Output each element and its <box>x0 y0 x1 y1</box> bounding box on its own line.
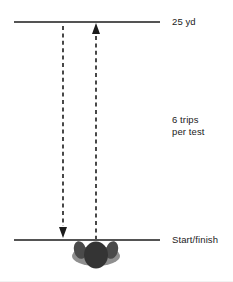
return-arrowhead-up <box>92 23 100 34</box>
trips-unit-label: per test <box>172 126 204 138</box>
trips-count-label: 6 trips <box>172 114 199 126</box>
top-distance-label: 25 yd <box>172 16 196 28</box>
shuttle-run-diagram: 25 yd 6 trips per test Start/finish <box>0 0 233 282</box>
start-finish-label: Start/finish <box>172 234 218 246</box>
runner-head-icon <box>84 242 108 269</box>
return-dashed-arrow <box>92 23 100 239</box>
outbound-dashed-arrow <box>59 26 67 238</box>
outbound-arrowhead-down <box>59 227 67 238</box>
runner-figure-overhead <box>72 240 120 269</box>
